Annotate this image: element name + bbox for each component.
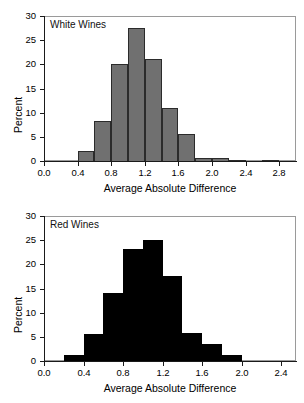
y-axis-line-red-wines [44,216,45,362]
y-tick-mark [40,40,44,41]
histogram-bar [84,334,104,362]
x-tick-label: 2.4 [266,368,296,378]
y-axis-title-red-wines: Percent [12,297,24,333]
x-axis-title-red-wines: Average Absolute Difference [44,382,296,394]
y-tick-label: 15 [14,84,36,94]
y-tick-mark [40,137,44,138]
x-axis-title-white-wines: Average Absolute Difference [44,182,296,194]
x-tick-mark [246,162,247,166]
y-tick-label: 15 [14,284,36,294]
x-tick-mark [123,362,124,366]
x-tick-label: 0.0 [29,368,59,378]
y-tick-mark [40,216,44,217]
x-tick-mark [281,362,282,366]
bars-layer-red-wines [44,216,297,362]
y-tick-label: 5 [14,332,36,342]
y-tick-label: 0 [14,356,36,366]
x-tick-mark [178,162,179,166]
y-tick-mark [40,64,44,65]
histogram-bar [182,333,202,362]
x-tick-label: 2.0 [197,168,227,178]
histogram-bar [123,249,143,362]
y-tick-mark [40,89,44,90]
histogram-bar [178,134,195,162]
histogram-bar [94,121,111,162]
x-tick-label: 0.8 [96,168,126,178]
x-tick-label: 1.2 [130,168,160,178]
x-tick-mark [279,162,280,166]
x-tick-label: 1.6 [187,368,217,378]
panel-white-wines: 051015202530 0.00.40.81.21.62.02.42.8 Pe… [0,0,304,200]
histogram-bar [202,344,222,362]
x-tick-label: 0.4 [69,368,99,378]
y-tick-label: 30 [14,211,36,221]
histogram-bar [145,59,162,162]
x-tick-mark [202,362,203,366]
y-axis-title-white-wines: Percent [12,97,24,133]
panel-red-wines: 051015202530 0.00.40.81.21.62.02.4 Perce… [0,200,304,400]
panel-label-red-wines: Red Wines [50,219,99,231]
x-tick-mark [78,162,79,166]
x-tick-label: 1.2 [148,368,178,378]
x-tick-label: 2.4 [231,168,261,178]
y-tick-mark [40,264,44,265]
y-tick-label: 25 [14,35,36,45]
y-tick-label: 0 [14,156,36,166]
x-tick-mark [111,162,112,166]
x-axis-line-white-wines [44,161,297,162]
y-tick-mark [40,240,44,241]
y-tick-label: 30 [14,11,36,21]
x-tick-label: 2.8 [264,168,294,178]
y-tick-mark [40,337,44,338]
histogram-bar [111,64,128,162]
y-tick-label: 25 [14,235,36,245]
y-tick-label: 20 [14,259,36,269]
x-tick-mark [212,162,213,166]
x-tick-mark [145,162,146,166]
x-tick-mark [84,362,85,366]
x-tick-mark [44,162,45,166]
y-tick-label: 5 [14,132,36,142]
x-tick-label: 1.6 [163,168,193,178]
y-axis-line-white-wines [44,16,45,162]
y-tick-mark [40,113,44,114]
histogram-bar [143,240,163,362]
x-tick-label: 2.0 [227,368,257,378]
histogram-bar [162,108,179,162]
y-tick-mark [40,289,44,290]
histogram-bar [163,276,183,362]
x-tick-label: 0.0 [29,168,59,178]
y-tick-mark [40,16,44,17]
histogram-bar [128,28,145,162]
y-tick-mark [40,313,44,314]
x-tick-label: 0.4 [63,168,93,178]
panel-label-white-wines: White Wines [50,19,106,31]
histogram-bar [103,293,123,362]
y-tick-label: 20 [14,59,36,69]
x-tick-mark [44,362,45,366]
x-tick-mark [242,362,243,366]
wine-difference-histograms-figure: 051015202530 0.00.40.81.21.62.02.42.8 Pe… [0,0,304,403]
x-axis-line-red-wines [44,361,297,362]
x-tick-mark [163,362,164,366]
x-tick-label: 0.8 [108,368,138,378]
bars-layer-white-wines [44,16,297,162]
